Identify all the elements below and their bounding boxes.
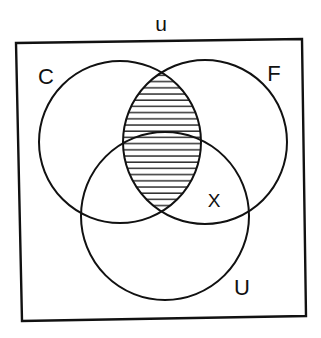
universe-label: u (155, 12, 167, 35)
set-u-label: U (234, 275, 250, 300)
set-c-label: C (38, 64, 54, 89)
venn-diagram: u C F U X (0, 0, 321, 338)
set-f-label: F (267, 61, 280, 86)
region-x-marker: X (208, 190, 221, 211)
